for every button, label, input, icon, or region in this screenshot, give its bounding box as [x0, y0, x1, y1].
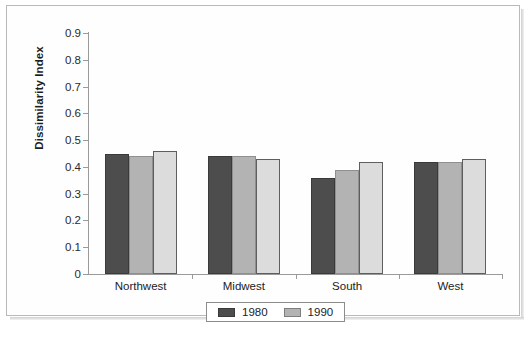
x-axis-label-northwest: Northwest [89, 280, 192, 292]
legend-label-1990: 1990 [308, 306, 334, 318]
bar-midwest-2000 [256, 159, 280, 274]
bar-northwest-2000 [153, 151, 177, 274]
y-axis-tick [83, 87, 89, 88]
y-axis-tick-labels: 0.90.80.70.60.50.40.30.20.10 [15, 6, 81, 345]
y-axis-tick [83, 274, 89, 275]
legend-item-1980: 1980 [218, 306, 268, 318]
x-axis-separator [192, 274, 193, 279]
y-axis-tick [83, 194, 89, 195]
bar-midwest-1980 [208, 156, 232, 274]
x-axis-label-west: West [399, 280, 502, 292]
x-axis-separator [502, 274, 503, 279]
y-axis-tick [83, 140, 89, 141]
y-axis-tick-label: 0.3 [21, 188, 81, 200]
bar-northwest-1980 [105, 154, 129, 275]
x-axis-label-south: South [296, 280, 399, 292]
y-axis-tick [83, 247, 89, 248]
y-axis-tick [83, 113, 89, 114]
y-axis-tick-label: 0.4 [21, 161, 81, 173]
x-axis-label-midwest: Midwest [192, 280, 295, 292]
scanned-page: Dissimilarity Index 0.90.80.70.60.50.40.… [0, 0, 529, 345]
x-axis-separator [399, 274, 400, 279]
y-axis-tick [83, 167, 89, 168]
x-axis-separator [296, 274, 297, 279]
y-axis-tick-label: 0.9 [21, 27, 81, 39]
page-shadow-right [521, 9, 524, 320]
y-axis-tick-label: 0.2 [21, 214, 81, 226]
y-axis-tick-label: 0.7 [21, 81, 81, 93]
legend-label-1980: 1980 [242, 306, 268, 318]
y-axis-tick-label: 0 [21, 268, 81, 280]
legend-swatch-1980 [218, 308, 235, 317]
bar-west-2000 [462, 159, 486, 274]
y-axis-tick [83, 60, 89, 61]
y-axis-tick [83, 33, 89, 34]
y-axis-tick-label: 0.8 [21, 54, 81, 66]
bar-south-1980 [311, 178, 335, 274]
y-axis-tick-label: 0.5 [21, 134, 81, 146]
chart-legend: 19801990 [206, 302, 345, 322]
bar-northwest-1990 [129, 156, 153, 274]
bar-west-1990 [438, 162, 462, 274]
bar-south-2000 [359, 162, 383, 274]
bar-west-1980 [414, 162, 438, 274]
y-axis-tick-label: 0.1 [21, 241, 81, 253]
legend-swatch-1990 [284, 308, 301, 317]
legend-item-1990: 1990 [284, 306, 334, 318]
bar-south-1990 [335, 170, 359, 274]
figure-frame: Dissimilarity Index 0.90.80.70.60.50.40.… [6, 5, 520, 316]
bar-midwest-1990 [232, 156, 256, 274]
y-axis-tick-label: 0.6 [21, 107, 81, 119]
y-axis-tick [83, 220, 89, 221]
